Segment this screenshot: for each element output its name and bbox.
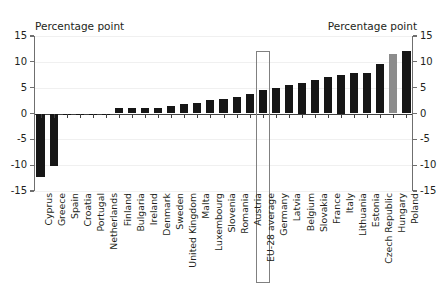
category-tick — [145, 114, 146, 118]
category-tick — [171, 114, 172, 118]
category-tick — [354, 114, 355, 118]
bar — [324, 77, 332, 114]
left-axis-title: Percentage point — [35, 21, 124, 32]
category-tick — [289, 114, 290, 118]
bar — [259, 90, 267, 114]
category-tick — [41, 114, 42, 118]
y-tick-label: -10 — [11, 160, 27, 170]
category-label: Finland — [123, 193, 132, 226]
bar — [272, 88, 280, 113]
category-label: Romania — [240, 193, 249, 234]
category-label: Estonia — [371, 193, 380, 227]
y-tick-label: -10 — [420, 160, 436, 170]
category-tick — [54, 114, 55, 118]
category-label: Portugal — [96, 193, 105, 232]
bar — [350, 73, 358, 113]
category-label: Netherlands — [109, 193, 118, 250]
category-tick — [132, 114, 133, 118]
bar — [311, 80, 319, 114]
category-label: France — [332, 193, 341, 224]
category-label: Slovakia — [319, 193, 328, 232]
category-label: Bulgaria — [136, 193, 145, 232]
category-tick — [197, 114, 198, 118]
bar — [402, 51, 410, 114]
category-tick — [80, 114, 81, 118]
category-label: Germany — [279, 193, 288, 236]
y-tick-label: -5 — [17, 134, 27, 144]
bar — [219, 99, 227, 113]
category-label: Croatia — [83, 193, 92, 226]
category-label: Belgium — [306, 193, 315, 231]
category-label: Latvia — [292, 193, 301, 221]
bar — [285, 85, 293, 114]
category-tick — [302, 114, 303, 118]
category-label: Slovenia — [227, 193, 236, 233]
category-tick — [210, 114, 211, 118]
category-label: Lithuania — [358, 193, 367, 236]
bar — [206, 100, 214, 114]
axis-tick — [413, 139, 417, 140]
y-tick-label: -15 — [420, 186, 436, 196]
category-label: Malta — [201, 193, 210, 219]
bar — [50, 114, 58, 166]
bar — [376, 64, 384, 113]
axis-tick — [413, 35, 417, 36]
category-label: Sweden — [175, 193, 184, 230]
gridline — [34, 191, 413, 192]
category-tick — [315, 114, 316, 118]
bar — [167, 106, 175, 113]
bar — [337, 75, 345, 114]
bar — [363, 73, 371, 114]
bar — [389, 54, 397, 114]
category-tick — [158, 114, 159, 118]
category-label: Greece — [57, 193, 66, 226]
category-tick — [93, 114, 94, 118]
category-tick — [67, 114, 68, 118]
category-tick — [224, 114, 225, 118]
bar — [193, 103, 201, 113]
y-tick-label: 5 — [420, 83, 426, 93]
category-label: Denmark — [162, 193, 171, 236]
category-label: Luxembourg — [214, 193, 223, 251]
category-tick — [184, 114, 185, 118]
category-tick — [406, 114, 407, 118]
axis-tick — [413, 61, 417, 62]
plot-area: 151510105500-5-5-10-10-15-15 — [34, 36, 413, 191]
category-tick — [341, 114, 342, 118]
category-label: Austria — [253, 193, 262, 226]
bar — [298, 83, 306, 114]
category-label: EU-28 average — [266, 193, 275, 262]
y-tick-label: 0 — [420, 109, 426, 119]
category-tick — [328, 114, 329, 118]
category-label: Cyprus — [44, 193, 53, 225]
y-tick-label: 0 — [21, 109, 27, 119]
y-tick-label: 15 — [14, 31, 27, 41]
bar — [180, 104, 188, 113]
category-axis-labels: CyprusGreeceSpainCroatiaPortugalNetherla… — [34, 193, 413, 292]
category-label: Hungary — [397, 193, 406, 233]
axis-tick — [413, 87, 417, 88]
category-tick — [393, 114, 394, 118]
category-tick — [276, 114, 277, 118]
bar — [246, 94, 254, 113]
category-label: United Kingdom — [188, 193, 197, 268]
y-tick-label: 10 — [420, 57, 433, 67]
category-tick — [119, 114, 120, 118]
category-tick — [106, 114, 107, 118]
axis-tick — [413, 190, 417, 191]
category-label: Poland — [410, 193, 419, 224]
axis-tick — [413, 113, 417, 114]
category-tick — [237, 114, 238, 118]
bar — [36, 114, 44, 178]
bar-chart: Percentage point Percentage point 151510… — [0, 0, 447, 292]
category-tick — [367, 114, 368, 118]
axis-tick — [413, 165, 417, 166]
category-tick — [380, 114, 381, 118]
y-tick-label: 5 — [21, 83, 27, 93]
category-label: Italy — [345, 193, 354, 213]
y-tick-label: -15 — [11, 186, 27, 196]
y-tick-label: 10 — [14, 57, 27, 67]
category-label: Czech Republic — [384, 193, 393, 264]
y-tick-label: 15 — [420, 31, 433, 41]
right-axis-title: Percentage point — [328, 21, 417, 32]
